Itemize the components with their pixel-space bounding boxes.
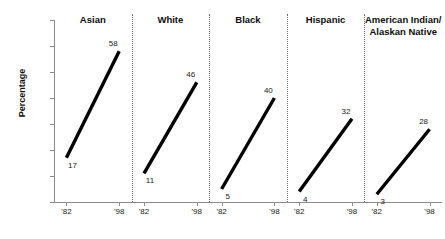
chart-container: Percentage 010203040506070 '82'98'82'98'… xyxy=(0,0,445,239)
value-label-start: 3 xyxy=(372,197,394,206)
value-label-end: 46 xyxy=(180,70,202,79)
value-label-end: 28 xyxy=(413,117,435,126)
series-line-black xyxy=(222,98,275,189)
value-label-end: 32 xyxy=(335,107,357,116)
value-label-start: 4 xyxy=(294,195,316,204)
value-label-end: 58 xyxy=(102,39,124,48)
value-label-start: 11 xyxy=(139,176,161,185)
value-label-start: 17 xyxy=(61,161,83,170)
series-line-white xyxy=(144,82,197,173)
series-line-hispanic xyxy=(299,119,352,192)
series-line-asian xyxy=(66,51,119,158)
value-label-end: 40 xyxy=(257,86,279,95)
value-label-start: 5 xyxy=(217,192,239,201)
series-line-american-indian-alaskan-native xyxy=(377,129,430,194)
